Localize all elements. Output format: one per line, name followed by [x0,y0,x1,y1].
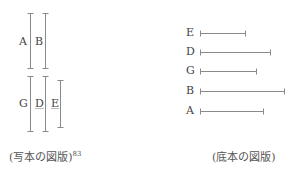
bar-label-b: B [35,36,43,48]
right-figure-caption: (底本の図版) [212,148,276,164]
row-label-e: E [186,27,194,39]
right-caption-text: (底本の図版) [212,151,276,164]
footnote-ref: 83 [73,150,82,158]
right-figure-bars [200,31,285,115]
bar-label-e: E [51,98,59,110]
bar-label-g: G [19,98,28,110]
row-label-d: D [186,46,195,58]
bar-label-a: A [19,36,27,48]
bar-label-d: D [35,98,44,110]
row-label-a: A [186,105,194,117]
row-label-b: B [186,85,194,97]
figure-lines [0,0,297,169]
left-caption-text: (写本の図版) [9,151,73,164]
left-figure-caption: (写本の図版)83 [9,148,82,164]
row-label-g: G [186,65,195,77]
left-figure-bars [28,13,64,132]
